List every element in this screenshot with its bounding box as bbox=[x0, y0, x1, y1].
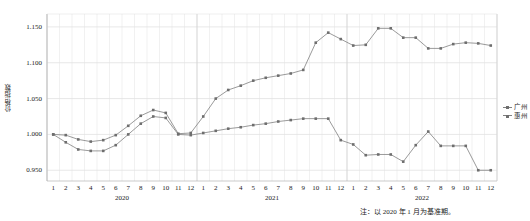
x-tick-2022-4: 4 bbox=[389, 184, 393, 192]
x-tick-2021-7: 7 bbox=[277, 184, 281, 192]
x-tick-2022-1: 1 bbox=[352, 184, 356, 192]
x-tick-2020-5: 5 bbox=[102, 184, 106, 192]
x-tick-2020-1: 1 bbox=[52, 184, 56, 192]
x-tick-2021-1: 1 bbox=[202, 184, 206, 192]
legend-marker-icon bbox=[503, 115, 512, 116]
x-tick-2020-10: 10 bbox=[162, 184, 169, 192]
legend-item-惠州[interactable]: 惠州 bbox=[503, 113, 528, 120]
x-tick-2021-4: 4 bbox=[239, 184, 243, 192]
year-label-2021: 2021 bbox=[265, 194, 279, 202]
x-tick-2022-10: 10 bbox=[462, 184, 469, 192]
x-tick-2021-11: 11 bbox=[325, 184, 332, 192]
x-tick-2020-6: 6 bbox=[114, 184, 118, 192]
x-tick-2021-12: 12 bbox=[337, 184, 344, 192]
y-tick-2: 1.050 bbox=[0, 95, 42, 103]
x-tick-2021-8: 8 bbox=[289, 184, 293, 192]
x-tick-2020-7: 7 bbox=[127, 184, 131, 192]
chart-legend: 广州惠州 bbox=[503, 104, 528, 121]
x-tick-2020-9: 9 bbox=[152, 184, 156, 192]
x-tick-2021-6: 6 bbox=[264, 184, 268, 192]
x-tick-2022-8: 8 bbox=[439, 184, 443, 192]
y-tick-3: 1.100 bbox=[0, 59, 42, 67]
y-tick-0: 0.950 bbox=[0, 166, 42, 174]
x-tick-2021-10: 10 bbox=[312, 184, 319, 192]
x-tick-2022-6: 6 bbox=[414, 184, 418, 192]
x-tick-2021-3: 3 bbox=[227, 184, 231, 192]
price-index-line-chart: 价格指数 0.9501.0001.0501.1001.150 123456789… bbox=[0, 0, 530, 221]
legend-label: 广州 bbox=[514, 104, 528, 111]
x-tick-2020-12: 12 bbox=[187, 184, 194, 192]
x-tick-2022-12: 12 bbox=[487, 184, 494, 192]
x-tick-2022-2: 2 bbox=[364, 184, 368, 192]
x-tick-2020-8: 8 bbox=[139, 184, 143, 192]
chart-note: 注：以 2020 年 1 月为基准期。 bbox=[360, 206, 455, 216]
x-tick-2022-3: 3 bbox=[377, 184, 381, 192]
legend-marker-icon bbox=[503, 107, 512, 108]
legend-item-广州[interactable]: 广州 bbox=[503, 104, 528, 111]
year-label-2022: 2022 bbox=[415, 194, 429, 202]
x-tick-2020-11: 11 bbox=[175, 184, 182, 192]
x-tick-2022-7: 7 bbox=[427, 184, 431, 192]
x-tick-2022-11: 11 bbox=[475, 184, 482, 192]
x-tick-2020-4: 4 bbox=[89, 184, 93, 192]
x-tick-2022-9: 9 bbox=[452, 184, 456, 192]
x-tick-2020-3: 3 bbox=[77, 184, 81, 192]
year-label-2020: 2020 bbox=[115, 194, 129, 202]
x-tick-2022-5: 5 bbox=[402, 184, 406, 192]
y-tick-4: 1.150 bbox=[0, 23, 42, 31]
x-tick-2020-2: 2 bbox=[64, 184, 68, 192]
x-tick-2021-2: 2 bbox=[214, 184, 218, 192]
x-tick-2021-5: 5 bbox=[252, 184, 256, 192]
y-tick-1: 1.000 bbox=[0, 130, 42, 138]
legend-label: 惠州 bbox=[514, 113, 528, 120]
x-tick-2021-9: 9 bbox=[302, 184, 306, 192]
